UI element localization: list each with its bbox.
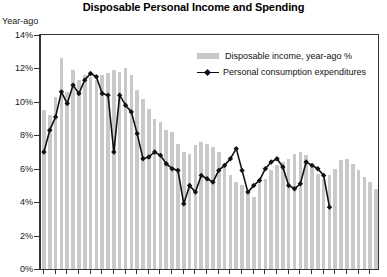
x-tick-mark: [323, 270, 324, 274]
legend-item-disposable-income: Disposable income, year-ago %: [197, 48, 366, 64]
x-tick-mark: [288, 270, 289, 274]
y-tick-label: 6%: [0, 164, 33, 174]
x-tick-mark: [206, 270, 207, 274]
x-tick-mark: [241, 270, 242, 274]
x-tick-mark: [55, 270, 56, 274]
y-tick-label: 4%: [0, 197, 33, 207]
x-tick-mark: [78, 270, 79, 274]
legend-bar-swatch-icon: [197, 53, 219, 59]
x-tick-mark: [125, 270, 126, 274]
x-tick-mark: [218, 270, 219, 274]
x-tick-mark: [183, 270, 184, 274]
legend-item-pce: Personal consumption expenditures: [197, 64, 366, 80]
x-tick-mark: [358, 270, 359, 274]
x-tick-mark: [253, 270, 254, 274]
y-tick-label: 0%: [0, 264, 33, 274]
x-tick-mark: [159, 270, 160, 274]
legend-line-swatch-icon: [197, 68, 219, 77]
chart-title: Disposable Personal Income and Spending: [0, 0, 387, 14]
x-tick-mark: [136, 270, 137, 274]
x-tick-mark: [369, 270, 370, 274]
x-tick-mark: [229, 270, 230, 274]
y-tick-label: 14%: [0, 30, 33, 40]
x-tick-mark: [276, 270, 277, 274]
x-tick-mark: [194, 270, 195, 274]
x-tick-mark: [264, 270, 265, 274]
y-axis-label: Year-ago: [2, 16, 38, 27]
x-tick-mark: [90, 270, 91, 274]
y-tick-label: 10%: [0, 97, 33, 107]
x-tick-mark: [113, 270, 114, 274]
y-tick-label: 2%: [0, 231, 33, 241]
x-tick-mark: [299, 270, 300, 274]
x-tick-mark: [334, 270, 335, 274]
y-tick-label: 12%: [0, 63, 33, 73]
x-tick-mark: [148, 270, 149, 274]
legend-label-pce: Personal consumption expenditures: [223, 67, 366, 78]
x-tick-mark: [346, 270, 347, 274]
x-tick-mark: [311, 270, 312, 274]
x-tick-mark: [101, 270, 102, 274]
x-tick-mark: [66, 270, 67, 274]
y-tick-label: 8%: [0, 130, 33, 140]
x-tick-mark: [43, 270, 44, 274]
chart-legend: Disposable income, year-ago % Personal c…: [197, 48, 366, 80]
legend-label-disposable-income: Disposable income, year-ago %: [225, 51, 352, 62]
x-tick-mark: [171, 270, 172, 274]
